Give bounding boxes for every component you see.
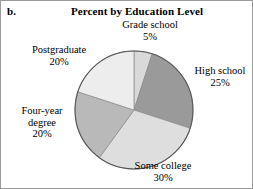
pie-label-high-school: High school 25% (187, 65, 253, 88)
pie-label-four-year-degree-line2: degree (11, 117, 73, 129)
pie-label-grade-school-value: 5% (107, 31, 193, 43)
figure-panel: b. Percent by Education Level Grade scho… (0, 0, 253, 189)
pie-label-some-college-value: 30% (119, 172, 207, 184)
pie-label-grade-school-name: Grade school (107, 19, 193, 31)
pie-label-some-college: Some college 30% (119, 160, 207, 183)
pie-slice-group (75, 51, 193, 169)
pie-label-postgraduate: Postgraduate 20% (19, 44, 99, 67)
pie-label-high-school-value: 25% (187, 77, 253, 89)
pie-label-grade-school: Grade school 5% (107, 19, 193, 42)
pie-label-postgraduate-name: Postgraduate (19, 44, 99, 56)
pie-label-four-year-degree: Four-year degree 20% (11, 105, 73, 140)
pie-label-high-school-name: High school (187, 65, 253, 77)
pie-label-four-year-degree-line1: Four-year (11, 105, 73, 117)
pie-label-some-college-name: Some college (119, 160, 207, 172)
pie-label-postgraduate-value: 20% (19, 56, 99, 68)
pie-label-four-year-degree-value: 20% (11, 128, 73, 140)
